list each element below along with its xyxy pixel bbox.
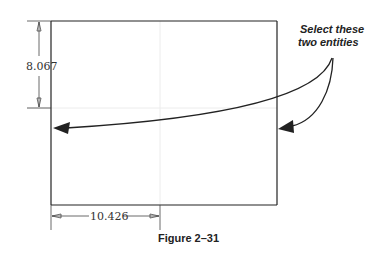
arrowhead-filled-left-icon [53,122,70,134]
horizontal-dimension-value[interactable]: 10.426 [90,210,129,223]
arrowhead-filled-right-icon [278,120,294,133]
sketch-canvas: 8.067 10.426 Select these two entities [0,0,377,255]
vertical-dimension[interactable]: 8.067 [26,21,58,108]
callout-line-2: two entities [298,36,359,48]
leader-arrow-to-right-edge [278,58,333,133]
vertical-dimension-value[interactable]: 8.067 [26,60,58,73]
sketch-rectangle[interactable] [51,21,277,205]
figure-caption: Figure 2–31 [0,232,377,244]
horizontal-dimension[interactable]: 10.426 [51,205,160,230]
callout-line-1: Select these [300,23,364,35]
